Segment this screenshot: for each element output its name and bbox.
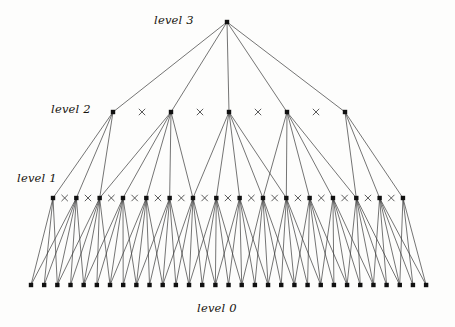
tree-edge xyxy=(170,112,171,198)
tree-edge xyxy=(97,198,123,285)
tree-edge xyxy=(76,198,83,285)
tree-edge xyxy=(176,198,193,285)
tree-node xyxy=(371,283,375,287)
cross-mark xyxy=(131,195,137,201)
tree-node xyxy=(279,283,283,287)
tree-node xyxy=(147,283,151,287)
tree-node xyxy=(167,196,171,200)
tree-node xyxy=(261,196,265,200)
cross-mark xyxy=(108,195,114,201)
tree-edge xyxy=(216,198,228,285)
tree-edge xyxy=(255,198,263,285)
tree-node xyxy=(144,196,148,200)
tree-node xyxy=(401,196,405,200)
tree-edge xyxy=(163,198,193,285)
tree-node xyxy=(191,196,195,200)
tree-edge xyxy=(380,198,426,285)
tree-node xyxy=(111,110,115,114)
tree-edge xyxy=(380,198,400,285)
tree-edge xyxy=(286,112,287,198)
tree-node xyxy=(29,283,33,287)
tree-node xyxy=(305,283,309,287)
tree-edge xyxy=(263,112,287,198)
tree-edge xyxy=(53,112,113,198)
level-2-label: level 2 xyxy=(51,102,91,116)
tree-node xyxy=(266,283,270,287)
tree-edge xyxy=(216,112,229,198)
tree-node xyxy=(354,196,358,200)
cross-mark xyxy=(255,109,261,115)
tree-node xyxy=(358,283,362,287)
tree-edge xyxy=(227,22,345,112)
tree-node xyxy=(343,110,347,114)
cross-mark xyxy=(178,195,184,201)
tree-edge xyxy=(171,22,227,112)
tree-node xyxy=(398,283,402,287)
cross-mark xyxy=(201,195,207,201)
tree-node xyxy=(95,283,99,287)
cross-mark xyxy=(313,109,319,115)
tree-edge xyxy=(113,22,227,112)
tree-node xyxy=(174,283,178,287)
tree-node xyxy=(345,283,349,287)
tree-edge xyxy=(110,198,123,285)
tree-node xyxy=(253,283,257,287)
cross-mark xyxy=(61,195,67,201)
tree-edge xyxy=(356,198,399,285)
tree-node xyxy=(97,196,101,200)
tree-edge xyxy=(356,198,360,285)
tree-edge xyxy=(193,198,202,285)
cross-mark xyxy=(139,109,145,115)
tree-node xyxy=(161,283,165,287)
diagram-canvas: level 3 level 2 level 1 level 0 xyxy=(0,0,455,327)
tree-edge xyxy=(333,198,360,285)
cross-mark xyxy=(197,109,203,115)
tree-edge xyxy=(44,198,53,285)
level-3-label: level 3 xyxy=(154,13,194,27)
tree-node xyxy=(51,196,55,200)
tree-edge xyxy=(308,198,310,285)
tree-edge xyxy=(57,198,99,285)
tree-edge xyxy=(215,198,216,285)
tree-edge xyxy=(100,112,113,198)
tree-edge xyxy=(76,112,113,198)
tree-edge xyxy=(287,112,356,198)
tree-edge xyxy=(123,198,146,285)
tree-edge xyxy=(215,198,239,285)
tree-edge xyxy=(31,198,53,285)
tree-edge xyxy=(71,198,100,285)
tree-edge xyxy=(227,22,287,112)
cross-mark xyxy=(85,195,91,201)
tree-node xyxy=(424,283,428,287)
tree-edge xyxy=(150,198,170,285)
cross-mark xyxy=(318,195,324,201)
tree-node xyxy=(74,196,78,200)
cross-mark xyxy=(388,195,394,201)
tree-node xyxy=(331,196,335,200)
tree-node xyxy=(169,110,173,114)
tree-node xyxy=(377,196,381,200)
tree-edge xyxy=(373,198,379,285)
tree-node xyxy=(214,196,218,200)
tree-node xyxy=(307,196,311,200)
cross-mark xyxy=(341,195,347,201)
tree-node xyxy=(55,283,59,287)
tree-edge xyxy=(163,198,170,285)
tree-node xyxy=(384,283,388,287)
tree-edge xyxy=(356,198,373,285)
tree-node xyxy=(134,283,138,287)
tree-edge xyxy=(240,198,242,285)
cross-mark xyxy=(248,195,254,201)
cross-mark xyxy=(365,195,371,201)
tree-node xyxy=(108,283,112,287)
tree-node xyxy=(226,283,230,287)
tree-node xyxy=(187,283,191,287)
tree-edge xyxy=(189,198,193,285)
tree-node xyxy=(81,283,85,287)
tree-node xyxy=(227,110,231,114)
tree-node xyxy=(121,196,125,200)
tree-edge xyxy=(345,112,356,198)
tree-edge xyxy=(110,198,146,285)
tree-edge xyxy=(287,112,310,198)
tree-edge xyxy=(123,198,136,285)
